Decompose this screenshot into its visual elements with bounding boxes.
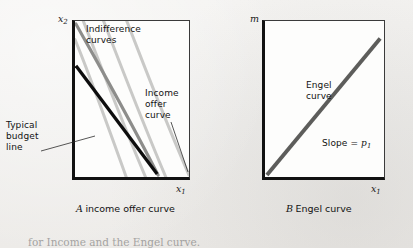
clipped-body-text: for Income and the Engel curve.	[28, 236, 388, 248]
caption-b-letter: B	[286, 203, 293, 214]
annotation-slope: Slope = p1	[322, 138, 371, 152]
slope-subscript: 1	[367, 142, 371, 150]
caption-panel-b: BEngel curve	[286, 203, 352, 214]
slope-prefix: Slope =	[322, 138, 361, 148]
annotation-typical-budget-line: Typical budget line	[6, 120, 39, 153]
caption-a-text: income offer curve	[85, 203, 175, 214]
engel-curve-line	[267, 39, 380, 176]
caption-panel-a: Aincome offer curve	[76, 203, 175, 214]
y-axis-label-panel-a: x2	[58, 14, 68, 26]
figure-page: x2 x1 m x1 Indifference curves Income of…	[0, 0, 413, 248]
annotation-engel-curve: Engel curve	[306, 80, 332, 102]
x-axis-label-panel-b: x1	[371, 184, 381, 196]
caption-b-text: Engel curve	[295, 203, 351, 214]
annotation-indifference-curves: Indifference curves	[86, 24, 141, 46]
y-axis-label-panel-b: m	[250, 14, 259, 24]
x-axis-label-panel-a: x1	[176, 184, 186, 196]
caption-a-letter: A	[76, 203, 83, 214]
annotation-income-offer-curve: Income offer curve	[145, 88, 179, 121]
